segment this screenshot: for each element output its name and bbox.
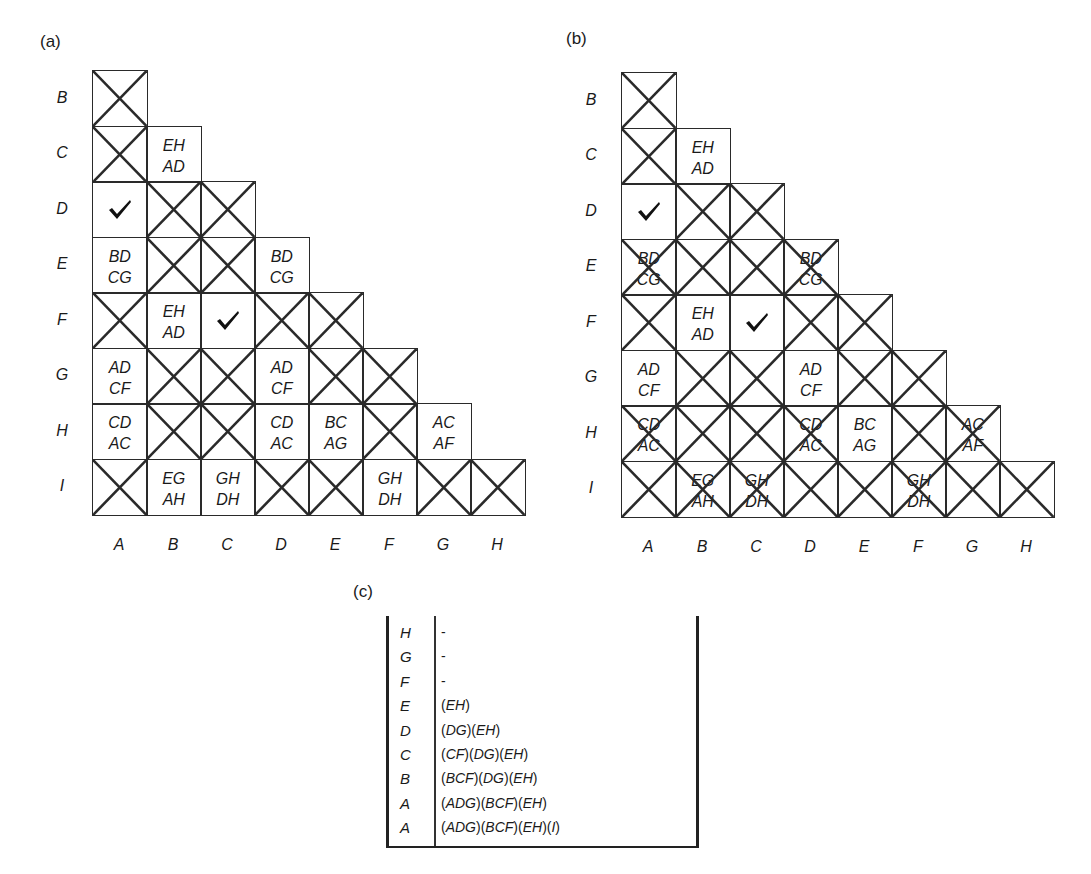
grid-b-cell-FA <box>621 294 677 351</box>
cell-pair-bottom: AC <box>255 436 309 452</box>
grid-a-cell-GA: ADCF <box>92 348 148 405</box>
cell-pair-bottom: AG <box>309 436 363 452</box>
grid-a-cell-FC <box>200 292 256 349</box>
grid-b-cell-GD: ADCF <box>783 350 839 407</box>
grid-b-cell-GB <box>675 350 731 407</box>
cell-pair-top: EG <box>147 471 201 487</box>
cell-pair-bottom: DH <box>363 492 417 508</box>
cell-pair-top: AD <box>784 362 838 378</box>
cross-out-icon <box>622 240 676 295</box>
cross-out-icon <box>93 127 147 182</box>
cross-out-icon <box>201 182 255 237</box>
table-row: G- <box>386 645 699 669</box>
grid-a-cell-IH <box>470 459 526 516</box>
grid-a-cell-IG <box>416 459 472 516</box>
cross-out-icon <box>363 349 417 404</box>
grid-b-cell-EC <box>729 239 785 296</box>
grid-a-cell-FE <box>308 292 364 349</box>
grid-a-row-label: B <box>52 89 72 107</box>
cross-out-icon <box>309 293 363 348</box>
cross-out-icon <box>676 351 730 406</box>
grid-b-cell-CB: EHAD <box>675 128 731 185</box>
cell-pair-top: AD <box>255 360 309 376</box>
cross-out-icon <box>417 460 471 515</box>
cross-out-icon <box>730 184 784 239</box>
grid-b-cell-HG: ACAF <box>945 405 1001 462</box>
grid-a-row-label: G <box>52 366 72 384</box>
cell-pair-bottom: CG <box>255 270 309 286</box>
grid-a-cell-IA <box>92 459 148 516</box>
grid-b-cell-DA <box>621 183 677 240</box>
grid-a-cell-CA <box>92 126 148 183</box>
cross-out-icon <box>201 404 255 459</box>
cell-pair-bottom: AC <box>93 436 147 452</box>
grid-b-row-label: G <box>581 368 601 386</box>
grid-b-cell-IH <box>999 461 1055 518</box>
grid-b-cell-GE <box>837 350 893 407</box>
cell-pair-bottom: AD <box>147 325 201 341</box>
grid-b-col-label: D <box>800 538 820 556</box>
grid-a-cell-GE <box>308 348 364 405</box>
grid-a-cell-DB <box>146 181 202 238</box>
cross-out-icon <box>255 460 309 515</box>
cross-out-icon <box>622 73 676 128</box>
table-row: H- <box>386 621 699 645</box>
cell-pair-top: CD <box>255 415 309 431</box>
grid-b-cell-FD <box>783 294 839 351</box>
state-key: A <box>400 795 410 812</box>
cross-out-icon <box>838 462 892 517</box>
grid-a-cell-EA: BDCG <box>92 237 148 294</box>
grid-a-row-label: I <box>52 477 72 495</box>
state-key: E <box>400 697 410 714</box>
cross-out-icon <box>946 406 1000 461</box>
cell-pair-top: BD <box>255 249 309 265</box>
grid-b-cell-HF <box>891 405 947 462</box>
grid-b-cell-FC <box>729 294 785 351</box>
cell-pair-bottom: AD <box>676 327 730 343</box>
cell-pair-top: EH <box>147 304 201 320</box>
panel-a-label: (a) <box>40 32 61 52</box>
grid-a-cell-IC: GHDH <box>200 459 256 516</box>
grid-a-cell-HB <box>146 403 202 460</box>
state-key: F <box>400 673 409 690</box>
grid-a-cell-DA <box>92 181 148 238</box>
table-bottom-border <box>386 846 699 848</box>
compatible-classes: (DG)(EH) <box>441 722 500 738</box>
grid-b-cell-IA <box>621 461 677 518</box>
grid-b-row-label: C <box>581 146 601 164</box>
cross-out-icon <box>946 462 1000 517</box>
cross-out-icon <box>676 462 730 517</box>
cell-pair-bottom: CF <box>255 381 309 397</box>
grid-a-col-label: E <box>325 536 345 554</box>
table-row: A(ADG)(BCF)(EH)(I) <box>386 816 699 840</box>
cell-pair-bottom: CF <box>93 381 147 397</box>
cell-pair-top: CD <box>93 415 147 431</box>
grid-b-cell-GA: ADCF <box>621 350 677 407</box>
grid-a-row-label: E <box>52 255 72 273</box>
grid-a-row-label: H <box>52 422 72 440</box>
compatible-classes: (ADG)(BCF)(EH)(I) <box>441 819 560 835</box>
table-row: E(EH) <box>386 694 699 718</box>
grid-a-row-label: F <box>52 311 72 329</box>
cross-out-icon <box>622 462 676 517</box>
cross-out-icon <box>892 406 946 461</box>
grid-a-cell-HD: CDAC <box>254 403 310 460</box>
grid-b-cell-EB <box>675 239 731 296</box>
cross-out-icon <box>730 462 784 517</box>
grid-b-cell-CA <box>621 128 677 185</box>
cross-out-icon <box>147 349 201 404</box>
cross-out-icon <box>471 460 525 515</box>
cross-out-icon <box>309 460 363 515</box>
grid-a-cell-FB: EHAD <box>146 292 202 349</box>
cross-out-icon <box>201 349 255 404</box>
table-row: D(DG)(EH) <box>386 719 699 743</box>
grid-a-col-label: F <box>379 536 399 554</box>
grid-a-cell-HC <box>200 403 256 460</box>
cell-pair-top: BD <box>93 249 147 265</box>
grid-b-cell-HA: CDAC <box>621 405 677 462</box>
cell-pair-top: AC <box>417 415 471 431</box>
state-key: H <box>400 624 411 641</box>
state-key: C <box>400 746 411 763</box>
grid-a-cell-GB <box>146 348 202 405</box>
state-key: G <box>400 648 412 665</box>
